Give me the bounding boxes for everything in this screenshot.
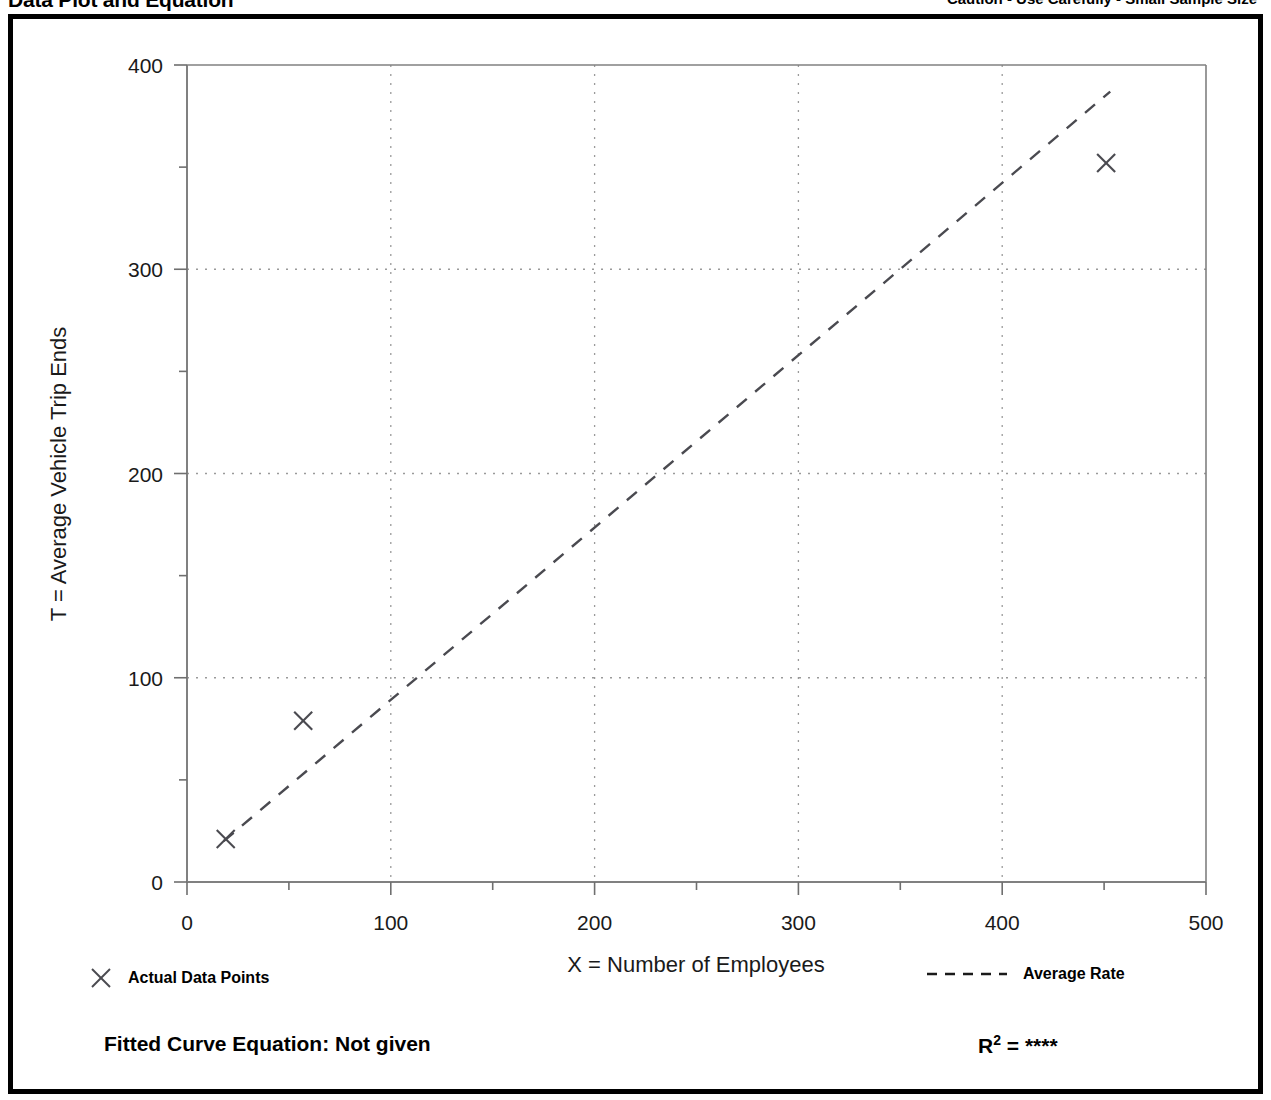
data-point-marker [217, 830, 235, 848]
dashed-line-icon [925, 967, 1009, 981]
series-actual-data-points [217, 154, 1115, 848]
x-tick-label: 400 [985, 911, 1020, 934]
legend-entry-average-rate: Average Rate [925, 965, 1125, 983]
figure-footer: Fitted Curve Equation: Not given R2 = **… [0, 1032, 1271, 1076]
y-axis-title: T = Average Vehicle Trip Ends [46, 327, 71, 622]
y-tick-label: 300 [128, 258, 163, 281]
x-tick-label: 500 [1188, 911, 1223, 934]
x-tick-label: 100 [373, 911, 408, 934]
data-point-marker [1097, 154, 1115, 172]
r-squared-exponent: 2 [993, 1032, 1001, 1048]
x-tick-label: 200 [577, 911, 612, 934]
chart-container: 0100200300400500 0100200300400 X = Numbe… [0, 0, 1271, 1100]
r-squared-stars: **** [1025, 1034, 1058, 1057]
y-tick-label: 200 [128, 463, 163, 486]
axis-ticks [174, 65, 1206, 895]
legend-label-actual-data-points: Actual Data Points [128, 969, 269, 987]
legend-label-average-rate: Average Rate [1023, 965, 1125, 983]
y-tick-label: 400 [128, 54, 163, 77]
y-axis-tick-labels: 0100200300400 [128, 54, 163, 894]
data-point-marker [294, 712, 312, 730]
figure-page: Data Plot and Equation Caution - Use Car… [0, 0, 1271, 1100]
legend-entry-actual-data-points: Actual Data Points [88, 965, 269, 991]
fitted-curve-equation: Fitted Curve Equation: Not given [104, 1032, 431, 1056]
r-squared-prefix: R [978, 1034, 993, 1057]
x-tick-label: 0 [181, 911, 193, 934]
r-squared-equals: = [1001, 1034, 1025, 1057]
scatter-chart: 0100200300400500 0100200300400 X = Numbe… [0, 0, 1271, 1100]
x-axis-tick-labels: 0100200300400500 [181, 911, 1223, 934]
grid-lines [187, 65, 1206, 882]
r-squared-value: R2 = **** [978, 1032, 1058, 1058]
series-average-rate [224, 92, 1111, 842]
y-tick-label: 0 [151, 871, 163, 894]
chart-legend: Actual Data Points Average Rate [0, 965, 1271, 1005]
x-marker-icon [88, 965, 114, 991]
plot-frame [187, 65, 1206, 882]
x-tick-label: 300 [781, 911, 816, 934]
y-tick-label: 100 [128, 667, 163, 690]
